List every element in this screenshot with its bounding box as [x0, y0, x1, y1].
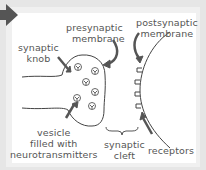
- vesicle-icon: [74, 95, 81, 102]
- label-synaptic-cleft: synaptic cleft: [104, 139, 145, 161]
- label-synaptic-knob: synaptic knob: [18, 42, 59, 64]
- label-vesicle: vesicle filled with neurotransmitters: [10, 127, 98, 160]
- receptor-icon: [135, 92, 140, 96]
- label-postsynaptic-membrane: postsynaptic membrane: [136, 17, 198, 39]
- vesicle-icon: [83, 79, 90, 86]
- vesicle-icon: [75, 64, 82, 71]
- receptor-icon: [137, 68, 142, 72]
- corner-arrow-icon: [0, 4, 18, 26]
- vesicle-icon: [92, 89, 99, 96]
- receptor-icon: [135, 80, 140, 84]
- label-presynaptic-membrane: presynaptic membrane: [64, 22, 125, 44]
- vesicle-icon: [89, 103, 96, 110]
- receptor-icon: [136, 104, 141, 108]
- postsynaptic-membrane-outline: [140, 32, 170, 148]
- synaptic-cleft-brace: [106, 127, 138, 135]
- vesicle-icon: [92, 68, 99, 75]
- label-receptors: receptors: [148, 145, 194, 156]
